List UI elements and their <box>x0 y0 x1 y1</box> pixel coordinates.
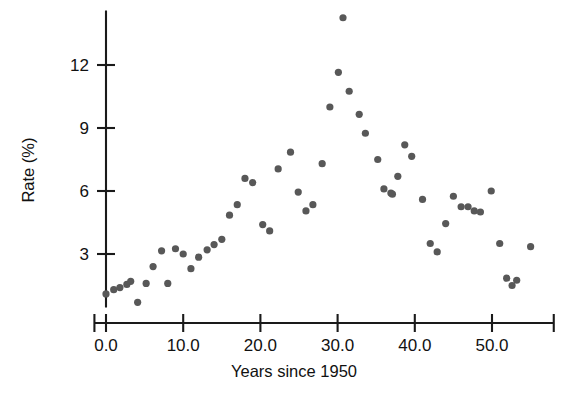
x-tick-label: 40.0 <box>398 336 431 355</box>
chart-figure: 36912 0.010.020.030.040.050.0 Years sinc… <box>0 0 587 395</box>
data-points <box>102 14 534 306</box>
scatter-point <box>134 299 141 306</box>
scatter-point <box>116 284 123 291</box>
scatter-point <box>210 241 217 248</box>
scatter-point <box>408 153 415 160</box>
y-axis-title: Rate (%) <box>19 137 37 202</box>
scatter-point <box>458 203 465 210</box>
scatter-point <box>427 240 434 247</box>
scatter-point <box>374 156 381 163</box>
scatter-point <box>226 212 233 219</box>
scatter-point <box>295 188 302 195</box>
scatter-point <box>362 130 369 137</box>
scatter-point <box>401 141 408 148</box>
scatter-point <box>309 201 316 208</box>
scatter-point <box>180 250 187 257</box>
scatter-point <box>389 191 396 198</box>
scatter-point <box>249 179 256 186</box>
x-tick-label: 0.0 <box>94 336 118 355</box>
scatter-point <box>102 290 109 297</box>
y-tick-label: 9 <box>80 119 89 138</box>
x-axis-title: Years since 1950 <box>231 362 357 380</box>
scatter-point <box>346 88 353 95</box>
scatter-point <box>259 221 266 228</box>
scatter-point <box>488 187 495 194</box>
y-axis: 36912 <box>70 10 115 307</box>
scatter-point <box>434 248 441 255</box>
x-axis: 0.010.020.030.040.050.0 <box>94 314 554 355</box>
y-tick-label: 3 <box>80 245 89 264</box>
scatter-point <box>450 193 457 200</box>
scatter-point <box>241 175 248 182</box>
scatter-point <box>302 207 309 214</box>
scatter-point <box>496 240 503 247</box>
scatter-point <box>127 278 134 285</box>
scatter-point <box>275 165 282 172</box>
scatter-point <box>218 236 225 243</box>
scatter-point <box>503 275 510 282</box>
scatter-point <box>158 247 165 254</box>
y-tick-label: 6 <box>80 182 89 201</box>
scatter-point <box>513 277 520 284</box>
scatter-plot: 36912 0.010.020.030.040.050.0 Years sinc… <box>0 0 587 395</box>
scatter-point <box>464 203 471 210</box>
scatter-point <box>172 245 179 252</box>
scatter-point <box>527 243 534 250</box>
scatter-point <box>356 111 363 118</box>
scatter-point <box>187 265 194 272</box>
scatter-point <box>319 160 326 167</box>
scatter-point <box>380 185 387 192</box>
x-tick-label: 50.0 <box>475 336 508 355</box>
scatter-point <box>335 69 342 76</box>
scatter-point <box>442 220 449 227</box>
scatter-point <box>326 103 333 110</box>
scatter-point <box>149 263 156 270</box>
scatter-point <box>110 286 117 293</box>
scatter-point <box>287 149 294 156</box>
scatter-point <box>477 208 484 215</box>
scatter-point <box>164 280 171 287</box>
x-tick-label: 30.0 <box>321 336 354 355</box>
scatter-point <box>339 14 346 21</box>
scatter-point <box>266 227 273 234</box>
x-tick-label: 10.0 <box>167 336 200 355</box>
x-tick-label: 20.0 <box>244 336 277 355</box>
scatter-point <box>204 246 211 253</box>
y-tick-label: 12 <box>70 56 89 75</box>
scatter-point <box>143 280 150 287</box>
scatter-point <box>419 196 426 203</box>
scatter-point <box>471 207 478 214</box>
scatter-point <box>195 254 202 261</box>
scatter-point <box>394 173 401 180</box>
scatter-point <box>234 201 241 208</box>
